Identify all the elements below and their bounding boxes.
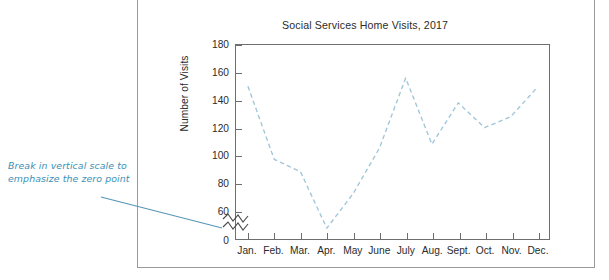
- y-tick-label: 140: [193, 94, 229, 105]
- y-tick-label: 120: [193, 122, 229, 133]
- data-series-line: [236, 45, 549, 239]
- x-tick-label: Dec.: [516, 245, 560, 256]
- chart-title: Social Services Home Visits, 2017: [150, 19, 580, 31]
- axis-break-zigzag-icon: [222, 206, 252, 232]
- y-axis-label: Number of Visits: [179, 34, 190, 154]
- y-tick-label: 80: [193, 178, 229, 189]
- y-tick-label: 160: [193, 66, 229, 77]
- figure: Social Services Home Visits, 2017 Number…: [150, 0, 580, 268]
- plot-area: [235, 44, 550, 240]
- y-tick-label-zero: 0: [193, 235, 229, 246]
- y-tick-label: 100: [193, 150, 229, 161]
- annotation-note: Break in vertical scale to emphasize the…: [8, 160, 130, 185]
- y-tick-label: 180: [193, 39, 229, 50]
